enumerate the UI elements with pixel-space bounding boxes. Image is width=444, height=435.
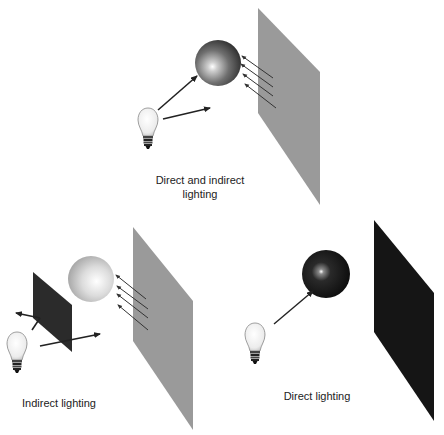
reflective-wall (133, 227, 193, 430)
direct-arrow (274, 291, 313, 324)
light-bulb-icon (245, 323, 265, 364)
reflective-wall (258, 8, 320, 205)
sphere (195, 40, 241, 86)
caption-indirect: Indirect lighting (18, 396, 100, 410)
light-bulb-icon (138, 108, 158, 149)
caption-direct-and-indirect: Direct and indirect lighting (150, 173, 250, 201)
indirect-arrow (163, 108, 210, 119)
sphere (302, 250, 350, 298)
caption-direct: Direct lighting (280, 389, 354, 403)
lighting-diagram (0, 0, 444, 435)
light-bulb-icon (7, 332, 27, 373)
direct-arrow (158, 76, 197, 110)
caption-line-1: Direct and indirect (150, 173, 250, 187)
caption-line-2: lighting (150, 187, 250, 201)
absorbing-wall (374, 220, 434, 421)
sphere (68, 256, 114, 302)
